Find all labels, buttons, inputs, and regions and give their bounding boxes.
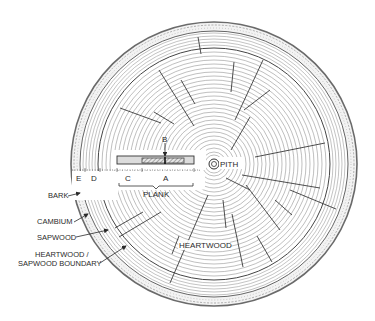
plank: [117, 156, 194, 164]
pith-label: PITH: [220, 160, 238, 169]
label-c: C: [125, 174, 131, 183]
label-a: A: [163, 174, 169, 183]
heartwood-label: HEARTWOOD: [179, 241, 232, 250]
plank-label: PLANK: [143, 190, 170, 199]
callout-boundary-line1: HEARTWOOD /: [35, 250, 90, 259]
pith: [209, 159, 219, 169]
label-b: B: [162, 135, 167, 144]
label-e: E: [76, 174, 81, 183]
label-d: D: [91, 174, 97, 183]
callout-bark: BARK: [48, 191, 68, 200]
callout-boundary-line2: SAPWOOD BOUNDARY: [18, 259, 102, 268]
log-cross-section-diagram: PITH B E D C A PLANK HEARTWOOD BARK CAMB…: [0, 0, 375, 321]
callout-cambium: CAMBIUM: [37, 217, 72, 226]
callout-sapwood: SAPWOOD: [37, 233, 77, 242]
